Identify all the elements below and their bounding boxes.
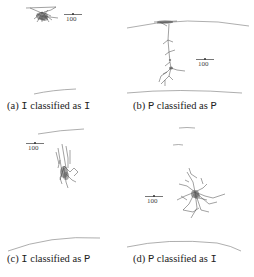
caption-label: (c) [7, 253, 19, 264]
lower-boundary-a [0, 0, 127, 138]
caption-b: (b) P classified as P [133, 100, 217, 112]
scale-bar-label: 100 [198, 60, 209, 68]
neuron-arbor [154, 21, 185, 86]
neuron-soma [157, 20, 173, 69]
neuron-arbor [177, 168, 225, 218]
neuron-arbor [56, 144, 78, 188]
layer-boundary-line [127, 91, 242, 94]
neuron-morphology-b [127, 0, 254, 138]
caption-d: (d) P classified as I [133, 253, 217, 265]
scale-bar-label: 100 [147, 197, 158, 205]
caption-label: (d) [133, 253, 145, 264]
panel-a: 100 (a) I classified as I [0, 0, 127, 138]
panel-d: 100 (d) P classified as I [127, 138, 254, 277]
predicted-class: P [210, 100, 216, 112]
predicted-class: P [84, 253, 90, 265]
layer-boundary-line [38, 129, 84, 134]
layer-boundary-line [127, 241, 241, 251]
true-class: P [148, 253, 154, 265]
caption-text: classified as [157, 253, 208, 264]
panel-b: 100 (b) P classified as P [127, 0, 254, 138]
layer-boundary-line [179, 128, 195, 129]
caption-text: classified as [30, 253, 81, 264]
panel-c: 100 (c) I classified as P [0, 138, 127, 277]
predicted-class: I [210, 253, 216, 265]
neuron-soma [60, 166, 69, 180]
scale-bar-label: 100 [28, 144, 39, 152]
caption-text: classified as [157, 100, 208, 111]
true-class: P [148, 100, 154, 112]
true-class: I [21, 253, 27, 265]
layer-boundary-line [8, 238, 100, 251]
layer-boundary-line [127, 21, 249, 28]
caption-label: (b) [133, 100, 145, 111]
layer-boundary-line [173, 145, 183, 146]
caption-c: (c) I classified as P [7, 253, 90, 265]
